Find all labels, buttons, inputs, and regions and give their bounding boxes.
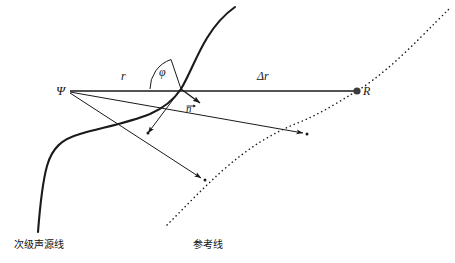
label-secondary-source-line: 次级声源线	[14, 240, 64, 250]
label-psi: Ψ	[56, 84, 65, 97]
label-phi: φ	[159, 66, 166, 78]
diagram-canvas: Ψ r Δr φ R n 次级声源线 参考线	[0, 0, 455, 263]
ray-psi-to-reference-point-lower	[70, 93, 201, 178]
label-r: r	[121, 70, 126, 82]
reference-intersection-dots	[147, 132, 309, 182]
label-reference-line: 参考线	[193, 240, 223, 250]
secondary-source-curve	[38, 7, 235, 232]
receiver-point-dot	[353, 87, 360, 94]
label-normal-vector: n	[186, 103, 192, 114]
vector-arrow-overbar-icon	[186, 103, 197, 108]
diagram-svg	[0, 0, 455, 263]
label-receiver-r: R	[363, 85, 370, 97]
label-delta-r: Δr	[257, 70, 269, 82]
